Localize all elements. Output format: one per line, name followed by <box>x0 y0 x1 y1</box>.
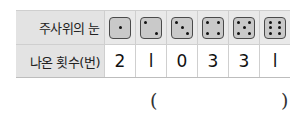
die-cell-3 <box>167 11 198 45</box>
count-cell-2: l <box>136 45 167 78</box>
count-row: 나온 횟수(번) 2 l 0 3 3 l <box>16 45 290 78</box>
count-cell-3: 0 <box>167 45 198 78</box>
die-face-4-icon <box>202 17 224 39</box>
count-label: 나온 횟수(번) <box>16 45 105 78</box>
dice-frequency-table: 주사위의 눈 <box>16 10 290 78</box>
count-cell-6: l <box>260 45 291 78</box>
die-cell-5 <box>229 11 260 45</box>
count-cell-5: 3 <box>229 45 260 78</box>
answer-open-paren: ( <box>150 89 157 111</box>
count-cell-4: 3 <box>198 45 229 78</box>
dice-face-row: 주사위의 눈 <box>16 11 290 45</box>
die-cell-1 <box>105 11 136 45</box>
die-face-2-icon <box>140 17 162 39</box>
die-face-3-icon <box>171 17 193 39</box>
die-cell-2 <box>136 11 167 45</box>
die-face-6-icon <box>264 17 286 39</box>
die-cell-6 <box>260 11 291 45</box>
dice-face-label: 주사위의 눈 <box>16 11 105 45</box>
die-cell-4 <box>198 11 229 45</box>
die-face-5-icon <box>233 17 255 39</box>
count-cell-1: 2 <box>105 45 136 78</box>
die-face-1-icon <box>109 17 131 39</box>
answer-close-paren: ) <box>281 89 288 111</box>
